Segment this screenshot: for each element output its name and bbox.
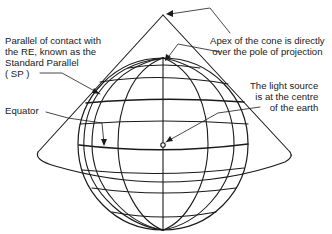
arrowhead-equator [101, 139, 107, 146]
light-source-point [161, 143, 165, 147]
label-light-source: The light source is at the centre of the… [250, 80, 318, 113]
meridian-left-3 [84, 58, 163, 230]
label-equator: Equator [5, 105, 39, 116]
parallel-4 [92, 188, 236, 193]
conical-projection-diagram: Parallel of contact with the RE, known a… [0, 0, 332, 234]
parallel-2 [80, 121, 248, 124]
arrowhead-apex-1 [166, 10, 173, 17]
label-apex: Apex of the cone is directly over the po… [210, 35, 325, 57]
meridian-right-1 [163, 58, 208, 230]
label-standard-parallel: Parallel of contact with the RE, known a… [5, 35, 101, 79]
leader-apex-1 [170, 8, 230, 33]
cone-base [37, 152, 291, 182]
parallel-standard [86, 99, 244, 103]
meridian-left-1 [118, 58, 163, 230]
